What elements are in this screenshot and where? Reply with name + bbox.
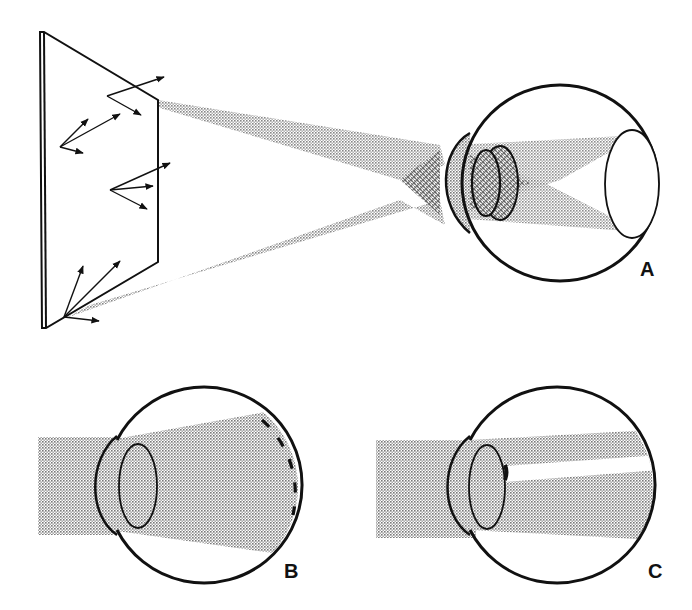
panel-label-c: C: [648, 560, 662, 582]
lens-b: [119, 444, 157, 528]
panel-b: B: [38, 387, 302, 583]
cornea-a: [446, 133, 470, 233]
retina-image-a: [605, 130, 659, 238]
lens-c: [469, 445, 505, 529]
panel-label-b: B: [284, 560, 298, 582]
reflecting-surface: [40, 32, 158, 328]
panel-c: C: [376, 387, 662, 583]
eye-optics-figure: A B C: [0, 0, 692, 610]
eye-a: [446, 85, 659, 281]
panel-a: A: [40, 32, 659, 328]
lens-a-front: [472, 150, 500, 216]
opacity-spot-c: [505, 465, 507, 480]
panel-label-a: A: [640, 258, 654, 280]
